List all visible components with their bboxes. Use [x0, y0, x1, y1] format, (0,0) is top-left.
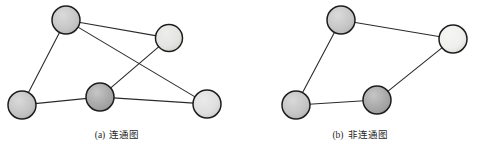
node-a-bottom-left-shading — [9, 92, 36, 119]
edge-a-topleft-topright — [79, 22, 157, 36]
node-a-top-left-shading — [53, 7, 80, 34]
node-a-top-left — [52, 6, 80, 34]
node-b-bottom-dark — [363, 86, 391, 114]
node-a-center-dark-shading — [87, 84, 114, 111]
edge-b-bottomdark-topright — [387, 47, 443, 92]
node-a-top-right — [156, 25, 183, 52]
node-a-bottom-right — [193, 90, 221, 118]
node-b-top-right — [439, 25, 467, 53]
edge-a-topleft-bottomleft — [28, 32, 60, 94]
graph-figure-canvas — [0, 0, 477, 150]
figure-root: (a)连通图 (b)非连通图 — [0, 0, 477, 150]
nodes-layer — [8, 6, 467, 119]
node-b-top-right-shading — [440, 26, 467, 53]
edge-a-topright-centerdark — [110, 46, 160, 88]
node-b-bottom-left-shading — [283, 92, 310, 119]
node-b-top — [327, 6, 355, 34]
edge-b-bottomleft-bottomdark — [309, 101, 364, 104]
edge-b-top-bottomleft — [302, 31, 335, 93]
edge-a-centerdark-bottomright — [113, 98, 194, 103]
node-b-bottom-dark-shading — [364, 87, 391, 114]
node-a-bottom-left — [8, 91, 36, 119]
edge-a-bottomleft-centerdark — [35, 98, 87, 103]
node-b-bottom-left — [282, 91, 310, 119]
node-b-top-shading — [328, 7, 355, 34]
node-a-bottom-right-shading — [194, 91, 221, 118]
node-a-top-right-shading — [156, 25, 182, 51]
node-a-center-dark — [86, 83, 114, 111]
edge-b-top-topright — [354, 22, 440, 37]
